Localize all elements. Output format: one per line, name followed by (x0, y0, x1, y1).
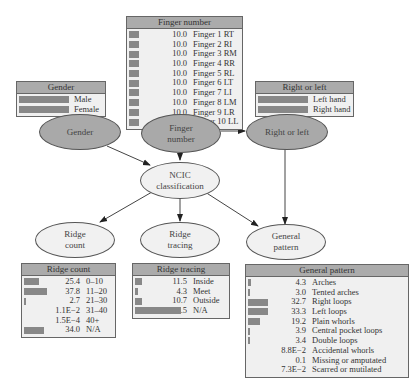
probability-bar-track (24, 317, 46, 324)
node-gender[interactable]: Gender (39, 114, 121, 150)
probability-bar (24, 327, 44, 334)
probability-bar-track (248, 279, 270, 286)
gender-table: Gender 50.0Male50.0Female (16, 81, 106, 117)
probability-bar (129, 60, 139, 67)
finger-number-table: Finger number 10.0Finger 1 RT10.0Finger … (126, 16, 243, 130)
probability-bar-track (248, 289, 270, 296)
probability-bar (135, 278, 142, 285)
general-pattern-table: General pattern 4.3Arches3.0Tented arche… (245, 264, 409, 378)
node-finger-number[interactable]: Fingernumber (141, 114, 221, 153)
ridge-tracing-rows: 11.5Inside4.3Meet10.7Outside73.5N/A (133, 276, 229, 318)
edge-gender-ncic (107, 146, 150, 165)
probability-bar (248, 308, 268, 315)
right-or-left-table-title: Right or left (256, 82, 353, 94)
probability-bar (129, 51, 139, 58)
probability-bar (135, 298, 142, 305)
ridge-count-table-title: Ridge count (22, 264, 115, 276)
probability-bar-track (129, 99, 157, 106)
probability-bar (129, 99, 139, 106)
table-row: 73.5N/A (135, 306, 227, 316)
probability-bar-track (129, 60, 157, 67)
node-general-pattern-label: Generalpattern (272, 231, 300, 253)
edge-ncic-ridgecount (100, 192, 152, 222)
probability-bar (248, 299, 268, 306)
ridge-tracing-table: Ridge tracing 11.5Inside4.3Meet10.7Outsi… (132, 263, 230, 319)
node-right-or-left-label: Right or left (265, 127, 309, 138)
probability-bar-track (258, 106, 290, 113)
table-row: 50.0Right hand (258, 105, 351, 115)
node-ncic-classification[interactable]: NCICclassification (140, 162, 220, 199)
probability-bar (19, 96, 69, 103)
probability-bar (24, 288, 47, 295)
probability-bar (24, 298, 26, 305)
ridge-count-table: Ridge count 25.40–1037.811–202.721–301.1… (21, 263, 116, 338)
probability-bar (129, 70, 139, 77)
probability-bar (248, 328, 250, 335)
probability-bar-track (129, 41, 157, 48)
general-pattern-table-title: General pattern (246, 265, 408, 277)
probability-bar (135, 307, 181, 314)
probability-bar (129, 109, 139, 116)
probability-bar (129, 31, 139, 38)
node-ncic-label: NCICclassification (156, 170, 203, 192)
probability-bar-track (19, 106, 51, 113)
finger-number-table-title: Finger number (127, 17, 242, 29)
probability-bar-track (248, 328, 270, 335)
state-label: Female (68, 105, 99, 115)
probability-bar-track (135, 307, 143, 314)
probability-bar-track (129, 89, 157, 96)
probability-bar-track (135, 278, 143, 285)
probability-bar (129, 89, 139, 96)
probability-bar (24, 278, 39, 285)
ridge-tracing-table-title: Ridge tracing (133, 264, 229, 276)
node-gender-label: Gender (67, 127, 94, 138)
probability-value: 34.0 (46, 325, 80, 335)
probability-bar-track (248, 357, 270, 364)
probability-bar-track (248, 308, 270, 315)
probability-bar (135, 288, 138, 295)
probability-bar-track (129, 80, 157, 87)
probability-bar (19, 106, 69, 113)
probability-bar (129, 80, 139, 87)
probability-bar (258, 106, 308, 113)
node-finger-number-label: Fingernumber (167, 123, 195, 145)
probability-bar-track (135, 298, 143, 305)
probability-bar-track (24, 288, 46, 295)
gender-table-title: Gender (17, 82, 105, 94)
state-label: N/A (80, 325, 101, 335)
right-or-left-rows: 50.0Left hand50.0Right hand (256, 94, 353, 116)
probability-bar-track (248, 337, 270, 344)
probability-bar (248, 279, 251, 286)
probability-bar (248, 318, 260, 325)
probability-bar (129, 119, 139, 126)
probability-bar-track (248, 367, 270, 374)
state-label: N/A (187, 306, 208, 316)
probability-bar-track (129, 51, 157, 58)
table-row: 50.0Female (19, 105, 103, 115)
probability-bar-track (135, 288, 143, 295)
table-row: 7.3E−2Scarred or mutilated (248, 365, 406, 375)
edge-ncic-general (205, 192, 258, 226)
node-right-or-left[interactable]: Right or left (246, 114, 328, 150)
node-general-pattern[interactable]: Generalpattern (246, 224, 326, 260)
probability-bar (248, 289, 250, 296)
node-ridge-tracing[interactable]: Ridgetracing (140, 222, 220, 258)
node-ridge-count-label: Ridgecount (64, 229, 86, 251)
table-row: 34.0N/A (24, 325, 113, 335)
probability-bar (129, 41, 139, 48)
node-ridge-tracing-label: Ridgetracing (168, 229, 193, 251)
ridge-count-rows: 25.40–1037.811–202.721–301.1E−231–401.5E… (22, 276, 115, 337)
probability-bar-track (129, 109, 157, 116)
probability-bar-track (248, 318, 270, 325)
right-or-left-table: Right or left 50.0Left hand50.0Right han… (255, 81, 354, 117)
probability-bar-track (129, 70, 157, 77)
state-label: Right hand (307, 105, 351, 115)
probability-bar-track (24, 298, 46, 305)
state-label: Scarred or mutilated (306, 365, 381, 375)
node-ridge-count[interactable]: Ridgecount (35, 222, 115, 258)
probability-value: 7.3E−2 (270, 365, 306, 375)
probability-bar-track (24, 307, 46, 314)
probability-bar-track (248, 299, 270, 306)
general-pattern-rows: 4.3Arches3.0Tented arches32.7Right loops… (246, 277, 408, 377)
probability-bar-track (19, 96, 51, 103)
